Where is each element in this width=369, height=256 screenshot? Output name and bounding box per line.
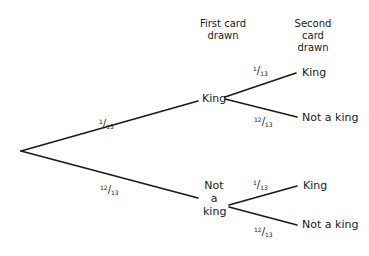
header-first-line2: drawn xyxy=(198,30,248,42)
header-first-card: First card drawn xyxy=(198,18,248,42)
prob-king-not-king: 12/13 xyxy=(254,115,273,130)
prob-root-king: 1/13 xyxy=(99,117,114,132)
node-second-king-b: King xyxy=(303,179,327,192)
king-line: king xyxy=(203,205,225,218)
header-first-line1: First card xyxy=(198,18,248,30)
not-line: Not xyxy=(203,179,225,192)
a-line: a xyxy=(203,192,225,205)
node-second-not-king-b: Not a king xyxy=(302,218,358,231)
node-second-king-a: King xyxy=(302,66,326,79)
node-first-not-king: Not a king xyxy=(203,179,225,218)
prob-king-king: 1/13 xyxy=(253,64,268,79)
header-second-card: Second card drawn xyxy=(283,18,343,54)
node-first-king: King xyxy=(202,92,226,105)
branch-notking-to-not-king xyxy=(229,207,297,225)
prob-notking-king: 1/13 xyxy=(253,178,268,193)
header-second-line1: Second card xyxy=(283,18,343,42)
header-second-line2: drawn xyxy=(283,42,343,54)
prob-root-not-king: 12/13 xyxy=(100,183,119,198)
prob-notking-not-king: 12/13 xyxy=(254,225,273,240)
node-second-not-king-a: Not a king xyxy=(302,111,358,124)
